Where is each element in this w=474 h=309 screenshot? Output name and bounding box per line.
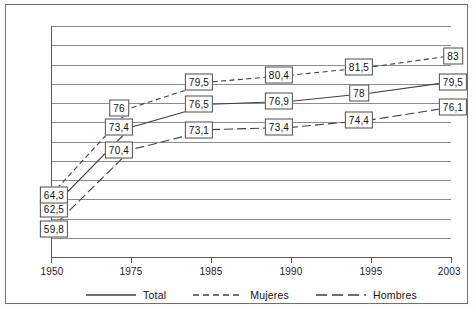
x-axis-tick-label: 1975	[119, 266, 142, 277]
chart-legend: Total Mujeres Hombres	[51, 286, 451, 304]
x-axis-tick	[451, 257, 452, 263]
data-label: 81,5	[345, 58, 373, 75]
x-axis-tick	[211, 257, 212, 263]
x-axis-line	[51, 257, 451, 258]
x-axis-tick-label: 1995	[359, 266, 382, 277]
data-label: 74,4	[345, 111, 373, 128]
solid-line-key	[85, 290, 137, 300]
data-label: 76,9	[265, 93, 293, 110]
data-label: 59,8	[40, 220, 68, 237]
data-label: 79,5	[185, 73, 213, 90]
x-axis-tick-label: 1985	[199, 266, 222, 277]
x-axis-tick	[51, 257, 52, 263]
chart-page: 195019751985199019952003 62,573,476,576,…	[0, 0, 474, 309]
legend-item-hombres[interactable]: Hombres	[315, 289, 417, 301]
legend-label-mujeres: Mujeres	[250, 289, 289, 301]
legend-label-total: Total	[143, 289, 166, 301]
data-label: 73,4	[265, 119, 293, 136]
data-label: 73,4	[105, 119, 133, 136]
x-axis-tick	[131, 257, 132, 263]
dashed-line-key	[192, 290, 244, 300]
x-axis-tick-label: 2003	[438, 266, 461, 277]
x-axis-tick	[291, 257, 292, 263]
data-label: 76	[109, 99, 129, 116]
legend-label-hombres: Hombres	[373, 289, 417, 301]
data-label: 76,1	[439, 99, 467, 116]
data-label: 78	[349, 85, 369, 102]
data-label: 76,5	[185, 96, 213, 113]
x-axis-tick-label: 1950	[40, 266, 63, 277]
legend-item-total[interactable]: Total	[85, 289, 166, 301]
legend-item-mujeres[interactable]: Mujeres	[192, 289, 289, 301]
data-label: 73,1	[185, 121, 213, 138]
data-label: 70,4	[105, 141, 133, 158]
x-axis-tick	[371, 257, 372, 263]
chart-frame: 195019751985199019952003 62,573,476,576,…	[5, 4, 468, 304]
data-label: 79,5	[439, 73, 467, 90]
data-label: 83	[443, 47, 463, 64]
x-axis-tick-label: 1990	[279, 266, 302, 277]
data-label: 80,4	[265, 67, 293, 84]
dash-dash-line-key	[315, 290, 367, 300]
data-label: 64,3	[40, 187, 68, 204]
